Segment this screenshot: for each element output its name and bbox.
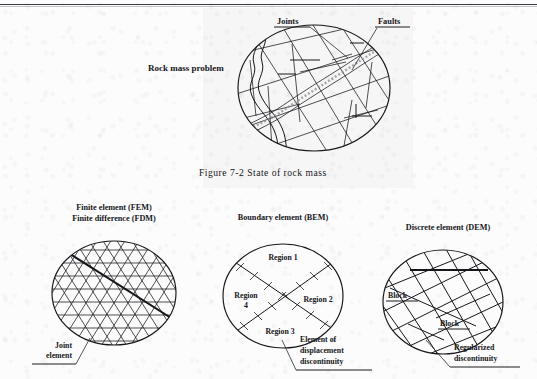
callout-joint-element: Joint element [32, 338, 90, 364]
dem-block-label-upper: Block [386, 291, 418, 301]
fem-heading-line2: Finite difference (FDM) [72, 214, 156, 223]
edd-label-line2: displacement [300, 346, 344, 355]
callout-joints-leader [310, 27, 348, 58]
dem-block-label-upper-text: Block [388, 291, 408, 300]
bem-region-4-label-line2: 4 [244, 301, 248, 310]
edd-leader [282, 340, 296, 370]
document-page: Rock mass problem [0, 0, 537, 379]
regdisc-label-line1: Regularized [454, 343, 495, 352]
fault-bands [230, 30, 398, 158]
bem-region-1-label: Region 1 [268, 253, 297, 262]
dem-heading: Discrete element (DEM) [406, 223, 491, 232]
bem-region-2-label: Region 2 [303, 295, 332, 304]
edd-label-line1: Element of [300, 335, 337, 344]
fem-boundary-ellipse [52, 241, 176, 345]
dem-boundary-ellipse [383, 250, 503, 354]
bem-region-3-label: Region 3 [265, 327, 294, 336]
joint-element-label-line1: Joint [55, 341, 72, 350]
dem-block-boundaries [366, 242, 524, 364]
regdisc-label-line2: discontinuity [454, 354, 497, 363]
dem-block-label-lower-text: Block [440, 319, 460, 328]
bem-heading: Boundary element (BEM) [238, 213, 329, 222]
callout-faults-label: Faults [378, 17, 401, 26]
rock-mass-figure: Rock mass problem [0, 0, 537, 200]
figure-caption: Figure 7-2 State of rock mass [199, 167, 327, 178]
joint-element-leader [76, 338, 90, 364]
joint-tick-marks [278, 43, 372, 118]
callout-joints: Joints [274, 17, 348, 58]
bem-region-4-label-line1: Region [234, 291, 258, 300]
callout-joints-label: Joints [277, 17, 299, 26]
edd-label-line3: discontinuity [300, 357, 343, 366]
fem-heading-line1: Finite element (FEM) [76, 203, 152, 212]
rock-mass-title: Rock mass problem [148, 63, 224, 73]
joint-element-label-line2: element [46, 351, 72, 360]
dem-diagram: Discrete element (DEM) Block Blo [348, 198, 537, 379]
